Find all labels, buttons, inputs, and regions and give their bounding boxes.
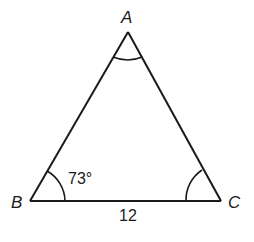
triangle-diagram: A B C 73° 12 (0, 0, 254, 242)
angle-arc-C (186, 170, 202, 201)
vertex-label-C: C (228, 193, 241, 212)
vertex-label-A: A (120, 8, 132, 27)
side-BC-label: 12 (119, 207, 137, 224)
vertex-label-B: B (11, 193, 22, 212)
angle-B-label: 73° (68, 170, 92, 187)
angle-arc-A (113, 57, 142, 60)
angle-arc-B (47, 171, 65, 201)
